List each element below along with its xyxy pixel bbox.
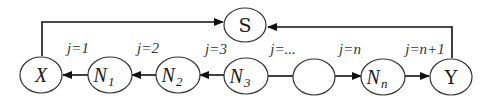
diagram-canvas: S X N1 N2 N3 Nn Y j=1 j=2 j=3 j=... j=n … bbox=[0, 0, 490, 105]
edge-label-j3: j=3 bbox=[203, 41, 227, 57]
node-y-label: Y bbox=[444, 66, 458, 88]
graph-svg: S X N1 N2 N3 Nn Y j=1 j=2 j=3 j=... j=n … bbox=[0, 0, 490, 105]
node-s-label: S bbox=[238, 14, 251, 36]
edge-label-j2: j=2 bbox=[135, 40, 159, 56]
edge-label-jdots: j=... bbox=[268, 41, 296, 57]
edge-label-j1: j=1 bbox=[65, 40, 89, 56]
node-x-label: X bbox=[34, 64, 48, 86]
node-blank bbox=[293, 59, 335, 95]
edge-label-jn: j=n bbox=[337, 41, 361, 57]
edge-label-jn1: j=n+1 bbox=[403, 41, 444, 57]
